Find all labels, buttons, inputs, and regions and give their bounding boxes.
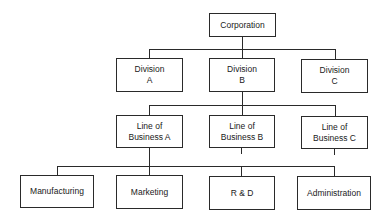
node-division-a: Division A <box>116 58 183 92</box>
connector <box>335 105 336 116</box>
connector <box>242 105 243 115</box>
connector <box>242 49 243 58</box>
node-corporation: Corporation <box>209 13 276 37</box>
node-line-of-business-c: Line of Business C <box>301 116 368 149</box>
node-administration: Administration <box>297 176 371 210</box>
connector <box>242 92 243 105</box>
node-r-and-d: R & D <box>209 176 275 210</box>
node-marketing: Marketing <box>116 175 183 209</box>
connector <box>57 166 58 175</box>
node-division-b: Division B <box>209 58 275 92</box>
connector <box>149 49 150 58</box>
connector <box>335 49 336 59</box>
connector <box>149 166 150 175</box>
node-division-c: Division C <box>301 59 368 93</box>
connector <box>241 166 242 176</box>
connector-stub <box>334 149 335 155</box>
node-manufacturing: Manufacturing <box>20 175 94 208</box>
connector <box>334 166 335 176</box>
connector <box>149 105 150 115</box>
node-line-of-business-a: Line of Business A <box>116 115 183 148</box>
connector <box>57 166 335 167</box>
node-line-of-business-b: Line of Business B <box>209 115 275 148</box>
connector <box>149 148 150 166</box>
connector-stub <box>241 148 242 154</box>
connector <box>242 36 243 49</box>
